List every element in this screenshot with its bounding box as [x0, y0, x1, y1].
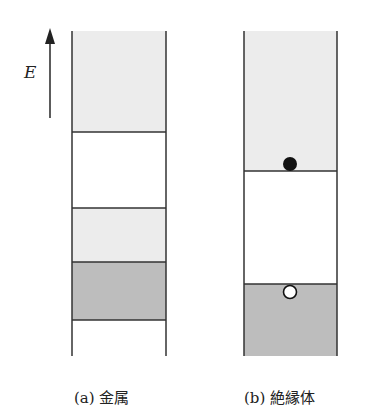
caption-a: (a) 金属 — [74, 386, 129, 407]
partially-filled-band-upper — [72, 208, 166, 262]
band-diagram — [0, 0, 365, 410]
energy-axis-label: E — [24, 62, 36, 82]
band-gap — [244, 171, 337, 284]
panel-b-insulator — [244, 31, 337, 356]
upper-band — [72, 31, 166, 132]
gap — [72, 132, 166, 208]
partially-filled-band-lower — [72, 262, 166, 320]
hole-dot — [284, 286, 297, 299]
electron-dot — [283, 157, 297, 171]
panel-a-metal — [72, 31, 166, 356]
conduction-band — [244, 31, 337, 171]
energy-axis-arrow — [45, 28, 55, 118]
caption-b: (b) 絶縁体 — [244, 386, 315, 407]
